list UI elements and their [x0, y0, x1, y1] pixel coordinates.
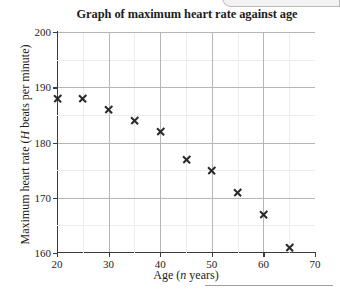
data-point-marker — [156, 127, 165, 136]
y-axis-tick-label: 170 — [35, 192, 52, 203]
data-point-marker — [233, 188, 242, 197]
x-axis-tick — [315, 252, 316, 257]
gridline-y-major — [57, 87, 315, 88]
gridline-y-major — [57, 143, 315, 144]
y-axis-title: Maximum heart rate (H beats per minute) — [18, 25, 33, 265]
x-axis-tick — [160, 252, 161, 257]
y-axis-tick — [53, 198, 58, 199]
page-corner-artifact — [222, 0, 340, 7]
y-axis-title-before: Maximum heart rate ( — [18, 140, 32, 245]
chart-title: Graph of maximum heart rate against age — [48, 7, 326, 22]
y-axis-tick — [53, 32, 58, 33]
gridline-y-major — [57, 198, 315, 199]
x-axis-tick — [212, 252, 213, 257]
data-point-marker — [104, 105, 113, 114]
y-axis-title-after: beats per minute) — [18, 45, 32, 131]
data-point-marker — [259, 210, 268, 219]
gridline-x-major — [263, 32, 264, 253]
y-axis-tick-label: 160 — [35, 248, 52, 259]
gridline-x-major — [160, 32, 161, 253]
data-point-marker — [182, 155, 191, 164]
data-point-marker — [53, 94, 62, 103]
x-axis-tick — [263, 252, 264, 257]
gridline-x-major — [212, 32, 213, 253]
y-axis-tick-label: 180 — [35, 137, 52, 148]
gridline-y-major — [57, 32, 315, 33]
y-axis-tick — [53, 143, 58, 144]
data-point-marker — [285, 243, 294, 252]
x-axis-tick — [57, 252, 58, 257]
data-point-marker — [130, 116, 139, 125]
page-rule-artifact — [205, 285, 333, 286]
plot-area: 160170180190200203040506070 — [57, 32, 315, 253]
y-axis-tick — [53, 87, 58, 88]
x-axis-title: Age (n years) — [57, 268, 315, 283]
y-axis-tick-label: 190 — [35, 82, 52, 93]
y-axis-title-variable: H — [18, 131, 32, 140]
x-axis-tick — [109, 252, 110, 257]
data-point-marker — [207, 166, 216, 175]
x-axis-title-after: years) — [186, 268, 218, 282]
data-point-marker — [78, 94, 87, 103]
x-axis-title-before: Age ( — [153, 268, 180, 282]
gridline-x-major — [109, 32, 110, 253]
y-axis-tick-label: 200 — [35, 27, 52, 38]
